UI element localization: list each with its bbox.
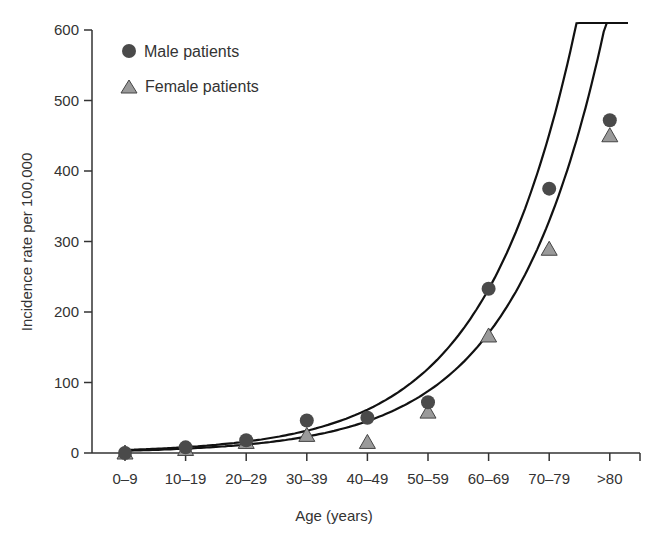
- male-data-point: [482, 282, 496, 296]
- chart-canvas: 0100200300400500600 0–910–1920–2930–3940…: [0, 0, 658, 541]
- male-data-point: [603, 113, 617, 127]
- x-tick-label: 70–79: [528, 470, 570, 487]
- female-data-point: [359, 434, 375, 448]
- legend-male-label: Male patients: [144, 43, 239, 60]
- female-data-point: [481, 328, 497, 342]
- y-tick-label: 200: [54, 303, 79, 320]
- x-tick-label: 50–59: [407, 470, 449, 487]
- x-tick-label: 20–29: [225, 470, 267, 487]
- male-marker-icon: [122, 44, 136, 58]
- data-points: [117, 113, 618, 460]
- x-tick-label: 0–9: [112, 470, 137, 487]
- male-data-point: [118, 446, 132, 460]
- legend: Male patients Female patients: [121, 43, 259, 95]
- x-tick-label: 30–39: [286, 470, 328, 487]
- female-marker-icon: [121, 80, 137, 93]
- y-tick-label: 0: [71, 444, 79, 461]
- male-data-point: [179, 440, 193, 454]
- y-axis-title: Incidence rate per 100,000: [18, 153, 35, 331]
- male-data-point: [421, 395, 435, 409]
- y-tick-label: 100: [54, 374, 79, 391]
- male-data-point: [542, 182, 556, 196]
- legend-female-label: Female patients: [145, 78, 259, 95]
- y-ticks: 0100200300400500600: [54, 21, 92, 461]
- x-axis-title: Age (years): [295, 507, 373, 524]
- male-data-point: [239, 433, 253, 447]
- y-tick-label: 500: [54, 92, 79, 109]
- female-data-point: [541, 241, 557, 255]
- x-tick-label: 10–19: [165, 470, 207, 487]
- y-tick-label: 300: [54, 233, 79, 250]
- male-data-point: [360, 411, 374, 425]
- y-tick-label: 400: [54, 162, 79, 179]
- male-data-point: [300, 414, 314, 428]
- x-tick-label: 40–49: [347, 470, 389, 487]
- x-ticks: 0–910–1920–2930–3940–4950–5960–6970–79>8…: [112, 453, 622, 487]
- x-tick-label: >80: [597, 470, 622, 487]
- x-tick-label: 60–69: [468, 470, 510, 487]
- female-data-point: [602, 128, 618, 142]
- y-tick-label: 600: [54, 21, 79, 38]
